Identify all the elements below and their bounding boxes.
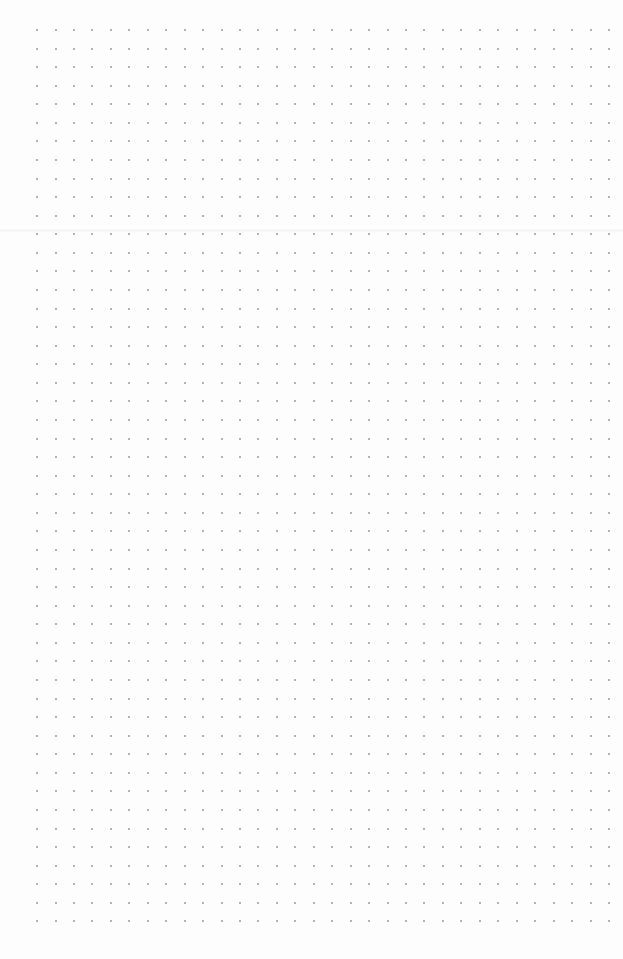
grid-dot xyxy=(442,902,444,904)
grid-dot xyxy=(128,753,130,755)
grid-dot xyxy=(36,456,38,458)
grid-dot xyxy=(36,85,38,87)
grid-dot xyxy=(202,419,204,421)
grid-dot xyxy=(239,605,241,607)
grid-dot xyxy=(590,828,592,830)
grid-dot xyxy=(571,475,573,477)
grid-dot xyxy=(202,865,204,867)
grid-dot xyxy=(55,586,57,588)
grid-dot xyxy=(257,215,259,217)
grid-dot xyxy=(553,382,555,384)
grid-dot xyxy=(165,103,167,105)
grid-dot xyxy=(590,698,592,700)
grid-dot xyxy=(73,568,75,570)
grid-dot xyxy=(331,605,333,607)
grid-dot xyxy=(36,883,38,885)
grid-dot xyxy=(294,568,296,570)
grid-dot xyxy=(553,438,555,440)
grid-dot xyxy=(221,48,223,50)
grid-dot xyxy=(128,122,130,124)
grid-dot xyxy=(571,883,573,885)
grid-dot xyxy=(479,456,481,458)
grid-dot xyxy=(110,920,112,922)
grid-dot xyxy=(110,48,112,50)
grid-dot xyxy=(147,85,149,87)
grid-dot xyxy=(257,493,259,495)
grid-dot xyxy=(294,530,296,532)
grid-dot xyxy=(553,475,555,477)
grid-dot xyxy=(479,605,481,607)
grid-dot xyxy=(387,178,389,180)
grid-dot xyxy=(534,772,536,774)
grid-dot xyxy=(516,549,518,551)
grid-dot xyxy=(571,772,573,774)
grid-dot xyxy=(73,530,75,532)
grid-dot xyxy=(147,642,149,644)
grid-dot xyxy=(239,48,241,50)
grid-dot xyxy=(534,475,536,477)
grid-dot xyxy=(128,178,130,180)
grid-dot xyxy=(313,196,315,198)
grid-dot xyxy=(202,308,204,310)
grid-dot xyxy=(479,846,481,848)
grid-dot xyxy=(313,438,315,440)
grid-dot xyxy=(331,48,333,50)
grid-dot xyxy=(202,363,204,365)
grid-dot xyxy=(276,586,278,588)
grid-dot xyxy=(313,735,315,737)
grid-dot xyxy=(608,308,610,310)
grid-dot xyxy=(460,568,462,570)
grid-dot xyxy=(165,233,167,235)
grid-dot xyxy=(387,846,389,848)
grid-dot xyxy=(128,660,130,662)
grid-dot xyxy=(110,586,112,588)
grid-dot xyxy=(405,66,407,68)
grid-dot xyxy=(165,270,167,272)
grid-dot xyxy=(73,716,75,718)
grid-dot xyxy=(553,883,555,885)
grid-dot xyxy=(313,865,315,867)
grid-dot xyxy=(479,178,481,180)
grid-dot xyxy=(331,196,333,198)
grid-dot xyxy=(55,920,57,922)
grid-dot xyxy=(442,549,444,551)
grid-dot xyxy=(73,493,75,495)
grid-dot xyxy=(55,419,57,421)
grid-dot xyxy=(147,883,149,885)
grid-dot xyxy=(91,456,93,458)
grid-dot xyxy=(128,438,130,440)
grid-dot xyxy=(313,920,315,922)
grid-dot xyxy=(128,920,130,922)
grid-dot xyxy=(221,289,223,291)
grid-dot xyxy=(442,883,444,885)
grid-dot xyxy=(239,828,241,830)
grid-dot xyxy=(590,29,592,31)
grid-dot xyxy=(608,605,610,607)
grid-dot xyxy=(36,400,38,402)
grid-dot xyxy=(460,308,462,310)
grid-dot xyxy=(497,382,499,384)
grid-dot xyxy=(202,660,204,662)
grid-dot xyxy=(55,66,57,68)
grid-dot xyxy=(497,623,499,625)
grid-dot xyxy=(368,883,370,885)
grid-dot xyxy=(368,753,370,755)
grid-dot xyxy=(590,363,592,365)
grid-dot xyxy=(387,753,389,755)
grid-dot xyxy=(73,159,75,161)
grid-dot xyxy=(221,605,223,607)
grid-dot xyxy=(331,122,333,124)
grid-dot xyxy=(387,252,389,254)
grid-dot xyxy=(516,456,518,458)
grid-dot xyxy=(202,512,204,514)
grid-dot xyxy=(128,530,130,532)
grid-dot xyxy=(590,308,592,310)
grid-dot xyxy=(387,493,389,495)
grid-dot xyxy=(590,883,592,885)
grid-dot xyxy=(479,345,481,347)
grid-dot xyxy=(479,549,481,551)
grid-dot xyxy=(571,735,573,737)
grid-dot xyxy=(276,270,278,272)
grid-dot xyxy=(350,438,352,440)
grid-dot xyxy=(91,493,93,495)
